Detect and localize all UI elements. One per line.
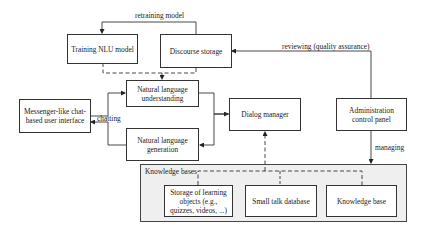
edge-retraining [102, 22, 196, 34]
node-nlu: Natural language understanding [126, 80, 199, 107]
edge-dialog-to-nlg [200, 114, 229, 145]
label-managing: managing [375, 143, 404, 152]
node-knowledge-base: Knowledge base [326, 185, 397, 217]
edge-reviewing [232, 51, 371, 98]
node-discourse-storage: Discourse storage [160, 34, 232, 68]
edge-nlu-to-dialog [199, 93, 228, 114]
node-storage-learning-objects: Storage of learning objects (e.g., quizz… [164, 185, 233, 217]
edge-nlg-to-messenger [91, 122, 126, 145]
edge-messenger-to-nlu [90, 93, 125, 116]
node-small-talk-database: Small talk database [245, 185, 317, 217]
node-training-nlu-model: Training NLU model [67, 34, 138, 64]
node-admin-control-panel: Administration control panel [336, 98, 407, 131]
node-dialog-manager: Dialog manager [229, 98, 301, 131]
node-nlg: Natural language generation [126, 128, 199, 161]
label-retraining: retraining model [135, 11, 184, 20]
node-messenger-ui: Messenger-like chat-based user interface [19, 99, 91, 133]
label-chatting: chatting [97, 114, 121, 123]
label-reviewing: reviewing (quality assurance) [282, 42, 369, 51]
